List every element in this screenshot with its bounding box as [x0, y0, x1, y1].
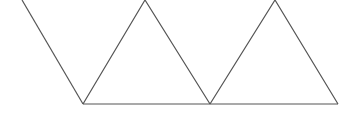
triangles-diagram: [0, 0, 352, 117]
triangle-1: [83, 0, 210, 104]
triangle-2: [210, 0, 338, 104]
diagram-canvas: [0, 0, 352, 117]
left-diagonal: [22, 0, 83, 104]
